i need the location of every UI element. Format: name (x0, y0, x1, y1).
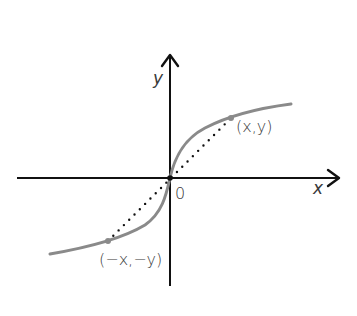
point-x-y (228, 115, 234, 121)
origin-label: 0 (175, 184, 185, 203)
origin-point (167, 175, 173, 181)
point-neg-x-neg-y (105, 238, 111, 244)
point-neg-x-neg-y-label: (−x,−y) (99, 250, 162, 269)
y-axis (162, 55, 178, 286)
odd-function-diagram: y x 0 (x,y) (−x,−y) (0, 0, 357, 316)
x-axis-label: x (312, 178, 324, 198)
point-x-y-label: (x,y) (236, 117, 273, 136)
y-axis-label: y (152, 68, 164, 88)
